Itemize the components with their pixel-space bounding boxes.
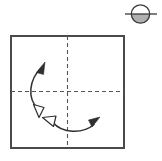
origami-figure [0, 0, 162, 161]
fold-and-unfold-symbol [125, 5, 157, 23]
origami-diagram-canvas [0, 0, 162, 161]
